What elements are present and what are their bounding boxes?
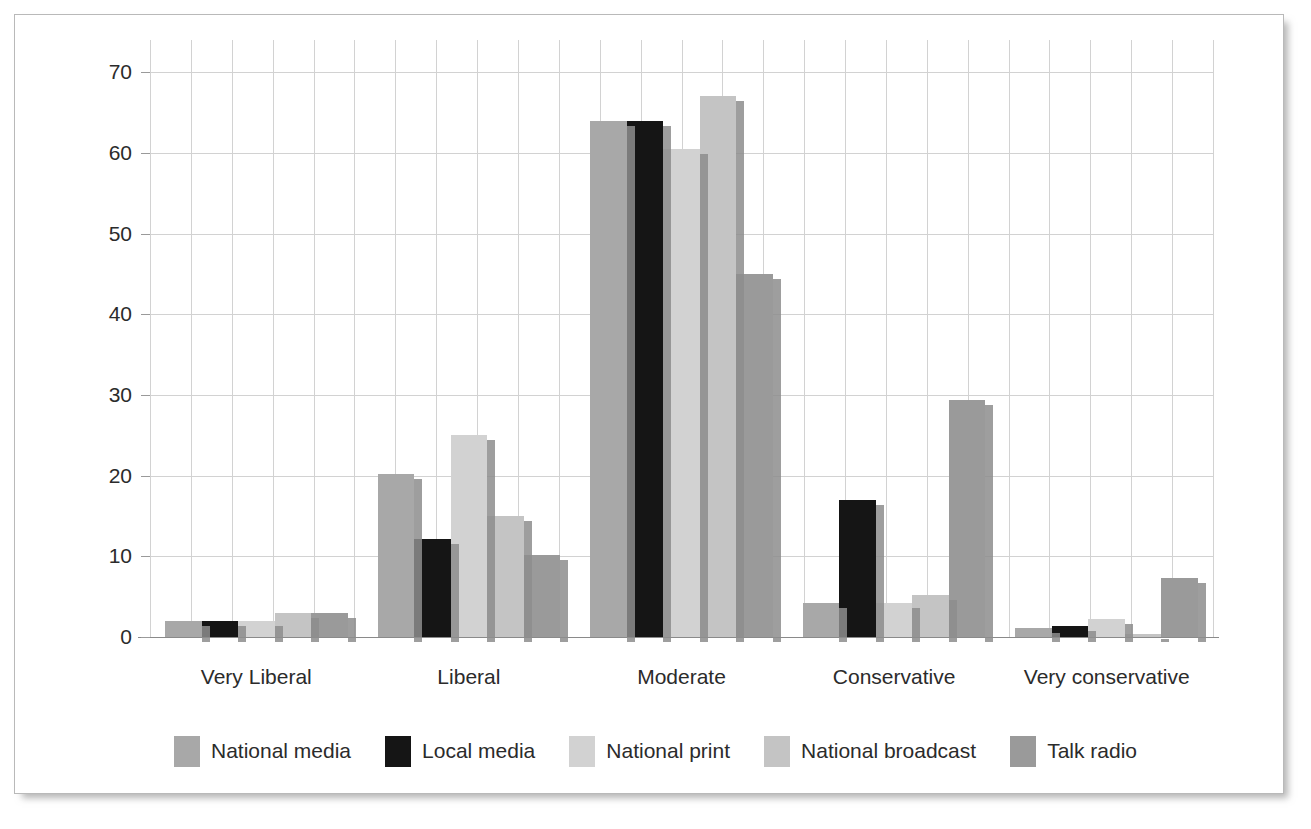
bar-fill — [378, 474, 415, 637]
y-axis-tick-mark — [141, 314, 150, 315]
bar — [311, 40, 348, 637]
bar — [803, 40, 840, 637]
bar-shadow — [1198, 583, 1206, 642]
y-axis-tick-mark — [141, 395, 150, 396]
legend-swatch — [569, 736, 595, 767]
y-axis-tick-label: 60 — [78, 141, 132, 165]
legend-item[interactable]: Talk radio — [1010, 736, 1137, 767]
bar — [912, 40, 949, 637]
bar-group — [1015, 40, 1198, 637]
legend-item[interactable]: National print — [569, 736, 730, 767]
x-axis-tick-label: Liberal — [437, 665, 500, 689]
legend-swatch — [174, 736, 200, 767]
bar-shadow — [487, 440, 495, 642]
gridline-vertical — [1213, 40, 1214, 637]
y-axis-tick-label: 70 — [78, 60, 132, 84]
bar — [275, 40, 312, 637]
bar-shadow — [627, 126, 635, 642]
legend-swatch — [385, 736, 411, 767]
y-axis-tick-labels: 010203040506070 — [78, 0, 132, 829]
bar-shadow — [1161, 639, 1169, 642]
bar-fill — [803, 603, 840, 637]
bar — [202, 40, 239, 637]
legend-swatch — [764, 736, 790, 767]
y-axis-tick-mark — [141, 153, 150, 154]
y-axis-tick-mark — [141, 72, 150, 73]
bar — [949, 40, 986, 637]
bar — [1161, 40, 1198, 637]
bar-shadow — [700, 154, 708, 642]
bar — [378, 40, 415, 637]
bar — [238, 40, 275, 637]
bar — [1015, 40, 1052, 637]
bar-shadow — [451, 544, 459, 642]
bar-shadow — [1052, 633, 1060, 642]
x-axis-tick-label: Very Liberal — [201, 665, 312, 689]
bar-fill — [590, 121, 627, 637]
legend-label: National media — [211, 739, 351, 763]
bar-shadow — [912, 608, 920, 642]
bar-shadow — [736, 101, 744, 642]
bar-shadow — [773, 279, 781, 642]
legend-label: Talk radio — [1047, 739, 1137, 763]
bar-fill — [1161, 578, 1198, 637]
legend-swatch — [1010, 736, 1036, 767]
bar-group — [165, 40, 348, 637]
bar-group — [803, 40, 986, 637]
bar-shadow — [414, 479, 422, 642]
bar-fill — [165, 621, 202, 637]
x-axis-tick-label: Conservative — [833, 665, 956, 689]
bar-shadow — [524, 521, 532, 642]
y-axis-tick-mark — [141, 556, 150, 557]
grouped-bar-chart: Percentage 010203040506070 Very LiberalL… — [0, 0, 1311, 829]
bar — [1088, 40, 1125, 637]
bar-group — [378, 40, 561, 637]
bar-group — [590, 40, 773, 637]
x-axis-tick-labels: Very LiberalLiberalModerateConservativeV… — [150, 665, 1213, 705]
x-axis-tick-label: Very conservative — [1024, 665, 1190, 689]
legend-item[interactable]: Local media — [385, 736, 535, 767]
chart-legend: National mediaLocal mediaNational printN… — [0, 728, 1311, 774]
bar-shadow — [949, 600, 957, 642]
bar-shadow — [560, 560, 568, 642]
bar-shadow — [876, 505, 884, 642]
bar-shadow — [348, 618, 356, 642]
x-axis-tick-label: Moderate — [637, 665, 726, 689]
bar — [1125, 40, 1162, 637]
bar-shadow — [1088, 631, 1096, 642]
bar-fill — [1015, 628, 1052, 637]
bar — [590, 40, 627, 637]
plot-area — [150, 40, 1213, 637]
gridline-vertical — [354, 40, 355, 637]
bar-shadow — [985, 405, 993, 642]
bar-shadow — [275, 626, 283, 642]
bar-shadow — [202, 626, 210, 642]
y-axis-tick-label: 40 — [78, 302, 132, 326]
y-axis-tick-mark — [141, 476, 150, 477]
y-axis-tick-mark — [141, 637, 150, 638]
y-axis-tick-label: 0 — [78, 625, 132, 649]
bar-shadow — [839, 608, 847, 642]
y-axis-tick-label: 20 — [78, 464, 132, 488]
legend-label: National broadcast — [801, 739, 976, 763]
bar — [1052, 40, 1089, 637]
legend-label: Local media — [422, 739, 535, 763]
legend-item[interactable]: National media — [174, 736, 351, 767]
gridline-vertical — [150, 40, 151, 637]
bar-shadow — [663, 126, 671, 642]
y-axis-tick-label: 30 — [78, 383, 132, 407]
bar-shadow — [311, 618, 319, 642]
bar-shadow — [1125, 624, 1133, 642]
y-axis-tick-label: 50 — [78, 222, 132, 246]
legend-label: National print — [606, 739, 730, 763]
y-axis-tick-label: 10 — [78, 544, 132, 568]
y-axis-tick-mark — [141, 234, 150, 235]
legend-item[interactable]: National broadcast — [764, 736, 976, 767]
bar — [165, 40, 202, 637]
bar-shadow — [238, 626, 246, 642]
bar — [839, 40, 876, 637]
gridline-vertical — [1009, 40, 1010, 637]
